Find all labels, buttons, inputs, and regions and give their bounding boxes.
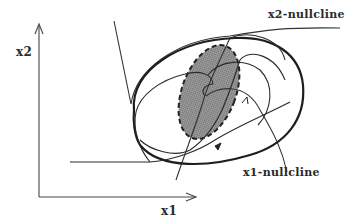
axes [35, 24, 196, 201]
x1-nullcline-label: x1-nullcline [243, 166, 320, 179]
x-axis-label: x1 [161, 204, 177, 218]
trajectory-arrow-icon [242, 97, 248, 104]
phase-plane-diagram [0, 0, 352, 221]
trajectory-arrow-icon [215, 143, 221, 150]
y-axis-label: x2 [16, 45, 32, 59]
unstable-region [167, 37, 251, 148]
x2-nullcline-label: x2-nullcline [268, 8, 345, 21]
